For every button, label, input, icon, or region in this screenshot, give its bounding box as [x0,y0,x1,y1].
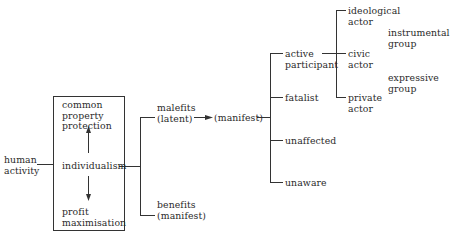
node-ideological-actor: ideological actor [348,6,400,27]
node-individualism: individualism [62,161,126,172]
node-benefits-manifest: benefits (manifest) [157,200,206,221]
node-human-activity: human activity [4,155,39,176]
node-unaffected: unaffected [285,136,336,147]
node-active-participant: active participant [285,49,338,70]
node-manifest: (manifest) [214,113,263,124]
node-civic-actor: civic actor [348,49,373,70]
node-unaware: unaware [285,178,327,189]
node-instrumental-group: instrumental group [388,28,450,49]
node-fatalist: fatalist [285,93,319,104]
node-expressive-group: expressive group [388,73,439,94]
node-malefits-latent: malefits (latent) [157,103,196,124]
node-common-property-protection: common property protection [62,100,112,132]
node-private-actor: private actor [348,93,382,114]
node-profit-maximisation: profit maximisation [62,207,126,228]
